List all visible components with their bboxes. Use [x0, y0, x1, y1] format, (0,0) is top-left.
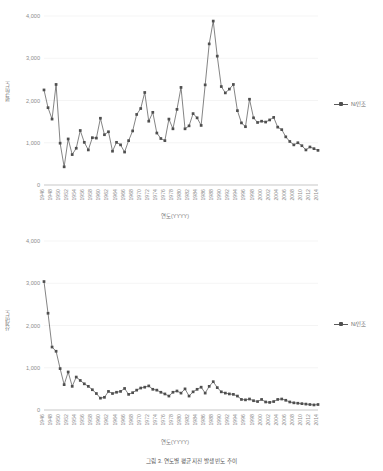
x-tick-label: 2006	[281, 189, 287, 201]
data-point-marker	[143, 91, 146, 94]
data-point-marker	[248, 98, 251, 101]
data-point-marker	[155, 389, 158, 392]
data-point-marker	[47, 106, 50, 109]
series-line	[44, 282, 318, 405]
chart-bottom-y-axis-title: 산계빈도	[4, 311, 12, 331]
x-tick-label: 1982	[184, 189, 190, 201]
x-tick-label: 1976	[160, 414, 166, 426]
y-tick-label: 0	[37, 182, 40, 188]
data-point-marker	[276, 398, 279, 401]
data-point-marker	[139, 387, 142, 390]
x-tick-label: 1956	[79, 414, 85, 426]
data-point-marker	[59, 367, 62, 370]
data-point-marker	[107, 390, 110, 393]
data-point-marker	[313, 147, 316, 150]
x-tick-label: 1994	[232, 189, 238, 201]
x-tick-label: 1960	[95, 189, 101, 201]
data-point-marker	[103, 396, 106, 399]
data-point-marker	[216, 386, 219, 389]
data-point-marker	[309, 403, 312, 406]
x-tick-label: 1970	[136, 189, 142, 201]
x-tick-label: 2002	[265, 414, 271, 426]
data-point-marker	[139, 107, 142, 110]
data-point-marker	[180, 392, 183, 395]
data-point-marker	[256, 400, 259, 403]
data-point-marker	[288, 401, 291, 404]
data-point-marker	[260, 398, 263, 401]
data-point-marker	[160, 137, 163, 140]
data-point-marker	[292, 144, 295, 147]
data-point-marker	[71, 153, 74, 156]
data-point-marker	[51, 118, 54, 121]
data-point-marker	[301, 402, 304, 405]
data-point-marker	[123, 151, 126, 154]
data-point-marker	[220, 85, 223, 88]
data-point-marker	[236, 109, 239, 112]
x-tick-label: 1988	[208, 189, 214, 201]
data-point-marker	[55, 350, 58, 353]
data-point-marker	[280, 398, 283, 401]
x-tick-label: 1984	[192, 189, 198, 201]
data-point-marker	[172, 391, 175, 394]
data-point-marker	[317, 149, 320, 152]
x-tick-label: 1964	[112, 414, 118, 426]
data-point-marker	[188, 395, 191, 398]
data-point-marker	[79, 129, 82, 132]
x-tick-label: 2012	[305, 189, 311, 201]
data-point-marker	[172, 127, 175, 130]
x-tick-label: 1952	[63, 189, 69, 201]
chart-bottom-x-axis-title: 연도(YYYY)	[40, 438, 310, 446]
data-point-marker	[168, 395, 171, 398]
chart-top-legend-label: N/인조	[351, 100, 366, 108]
y-tick-label: 2,000	[26, 98, 40, 104]
x-tick-label: 1946	[39, 189, 45, 201]
data-point-marker	[317, 403, 320, 406]
x-tick-label: 1962	[103, 189, 109, 201]
figure-caption: 그림 3. 연도별 평균 지진 발생 빈도 추이	[0, 457, 383, 465]
data-point-marker	[196, 116, 199, 119]
data-point-marker	[63, 383, 66, 386]
chart-bottom-legend[interactable]: N/인조	[334, 320, 366, 328]
x-tick-label: 1958	[87, 414, 93, 426]
data-point-marker	[115, 391, 118, 394]
x-tick-label: 1960	[95, 414, 101, 426]
x-tick-label: 1966	[120, 414, 126, 426]
data-point-marker	[91, 136, 94, 139]
data-point-marker	[272, 116, 275, 119]
data-point-marker	[143, 386, 146, 389]
data-point-marker	[204, 392, 207, 395]
y-tick-label: 0	[37, 407, 40, 413]
data-point-marker	[276, 126, 279, 129]
data-point-marker	[107, 130, 110, 133]
data-point-marker	[103, 133, 106, 136]
data-point-marker	[127, 139, 130, 142]
data-point-marker	[155, 132, 158, 135]
data-point-marker	[292, 401, 295, 404]
x-tick-label: 1946	[39, 414, 45, 426]
x-tick-label: 2008	[289, 189, 295, 201]
data-point-marker	[200, 124, 203, 127]
x-tick-label: 1984	[192, 414, 198, 426]
data-point-marker	[79, 379, 82, 382]
x-tick-label: 1962	[103, 414, 109, 426]
data-point-marker	[87, 149, 90, 152]
chart-bottom-legend-label: N/인조	[351, 320, 366, 328]
data-point-marker	[240, 122, 243, 125]
x-tick-label: 2004	[273, 414, 279, 426]
x-tick-label: 2012	[305, 414, 311, 426]
chart-top-legend[interactable]: N/인조	[334, 100, 366, 108]
data-point-marker	[268, 119, 271, 122]
chart-top-x-axis-title: 연도(YYYY)	[40, 212, 310, 220]
data-point-marker	[188, 125, 191, 128]
data-point-marker	[224, 92, 227, 95]
x-tick-label: 1968	[128, 189, 134, 201]
data-point-marker	[151, 388, 154, 391]
data-point-marker	[127, 393, 130, 396]
x-tick-label: 1974	[152, 414, 158, 426]
x-tick-label: 1978	[168, 189, 174, 201]
y-tick-label: 1,000	[26, 365, 40, 371]
data-point-marker	[147, 120, 150, 123]
data-point-marker	[216, 55, 219, 58]
x-tick-label: 1992	[224, 189, 230, 201]
data-point-marker	[232, 393, 235, 396]
